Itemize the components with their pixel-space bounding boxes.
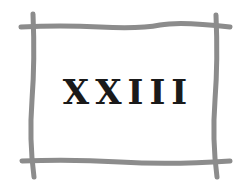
roman-numeral-title: XXIII bbox=[0, 72, 250, 112]
frame-bottom-bar bbox=[22, 160, 230, 163]
frame-top-bar bbox=[21, 23, 230, 27]
